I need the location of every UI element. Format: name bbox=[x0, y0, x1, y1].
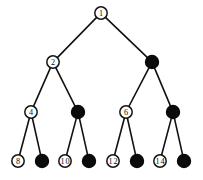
node-label: 8 bbox=[16, 157, 20, 166]
tree-node[interactable]: 12 bbox=[107, 155, 119, 167]
tree-edge bbox=[67, 118, 77, 155]
filled-node-circle bbox=[145, 55, 158, 68]
tree-edge bbox=[56, 68, 75, 107]
tree-node[interactable] bbox=[166, 105, 179, 118]
tree-node[interactable]: 4 bbox=[25, 106, 37, 118]
tree-node[interactable] bbox=[130, 154, 143, 167]
filled-node-circle bbox=[71, 105, 84, 118]
filled-node-circle bbox=[82, 154, 95, 167]
tree-edge bbox=[79, 118, 87, 154]
tree-node[interactable] bbox=[71, 105, 84, 118]
tree-edge bbox=[115, 118, 125, 155]
tree-edge bbox=[20, 118, 30, 155]
tree-edge bbox=[129, 68, 149, 107]
node-label: 12 bbox=[109, 157, 118, 166]
tree-edge bbox=[57, 17, 96, 57]
tree-node[interactable]: 2 bbox=[47, 56, 59, 68]
filled-node-circle bbox=[166, 105, 179, 118]
node-label: 10 bbox=[61, 157, 70, 166]
edge-layer bbox=[20, 17, 183, 155]
tree-edge bbox=[155, 68, 171, 106]
filled-node-circle bbox=[130, 154, 143, 167]
tree-edge bbox=[32, 118, 40, 155]
tree-node[interactable] bbox=[177, 154, 190, 167]
binary-tree-diagram: 12468101214 bbox=[0, 0, 203, 180]
tree-edge bbox=[105, 17, 147, 57]
node-label: 14 bbox=[156, 157, 165, 166]
tree-node[interactable]: 6 bbox=[120, 106, 132, 118]
tree-node[interactable] bbox=[35, 154, 48, 167]
tree-node[interactable]: 8 bbox=[12, 155, 24, 167]
tree-node[interactable]: 1 bbox=[95, 7, 107, 19]
node-label: 6 bbox=[124, 108, 128, 117]
filled-node-circle bbox=[35, 154, 48, 167]
tree-node[interactable] bbox=[82, 154, 95, 167]
tree-node[interactable] bbox=[145, 55, 158, 68]
node-label: 1 bbox=[99, 9, 103, 18]
filled-node-circle bbox=[177, 154, 190, 167]
tree-edge bbox=[34, 68, 51, 107]
node-label: 4 bbox=[29, 108, 33, 117]
tree-edge bbox=[162, 118, 172, 155]
node-label: 2 bbox=[51, 58, 55, 67]
tree-edge bbox=[127, 118, 135, 155]
tree-node[interactable]: 10 bbox=[59, 155, 71, 167]
tree-node[interactable]: 14 bbox=[154, 155, 166, 167]
tree-edge bbox=[174, 118, 182, 154]
